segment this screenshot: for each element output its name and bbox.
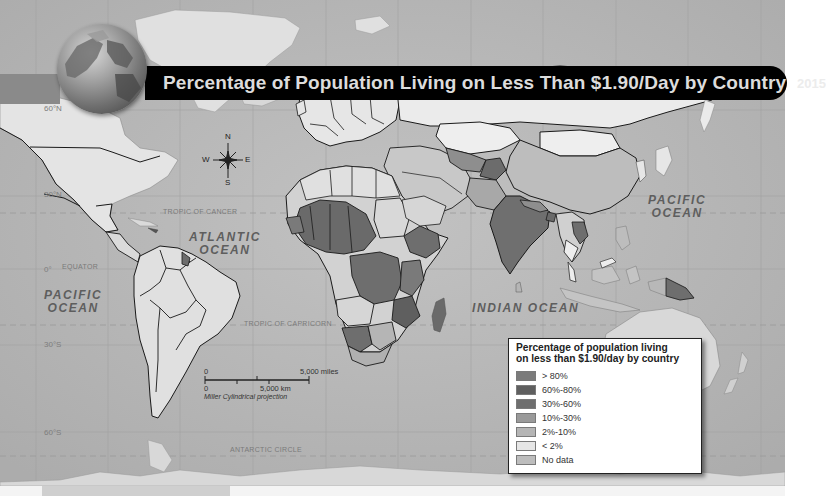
bottom-strip xyxy=(0,486,785,496)
legend-label: 30%-60% xyxy=(542,399,581,409)
equator-label: EQUATOR xyxy=(62,263,98,270)
compass-e: E xyxy=(245,155,250,164)
title-left-band xyxy=(0,74,60,104)
legend-swatch xyxy=(516,413,536,423)
legend-item: > 80% xyxy=(516,370,568,382)
tropic-of-cancer-label: TROPIC OF CANCER xyxy=(163,208,237,215)
pacific-ocean-west-label-line2: OCEAN xyxy=(44,302,102,315)
scale-km-zero: 0 xyxy=(204,384,208,393)
legend-item: < 2% xyxy=(516,440,563,452)
indian-ocean-label: INDIAN OCEAN xyxy=(472,302,579,315)
legend-item: 30%-60% xyxy=(516,398,581,410)
pacific-ocean-east-label-line2: OCEAN xyxy=(648,207,706,220)
antarctic-circle-label: ANTARCTIC CIRCLE xyxy=(230,446,302,453)
compass-n: N xyxy=(225,132,231,141)
lat-label-30n: 30°N xyxy=(44,190,62,199)
scale-bar-line xyxy=(204,375,314,385)
projection-label: Miller Cylindrical projection xyxy=(204,393,287,400)
bottom-strip-segment xyxy=(42,486,230,496)
legend-item: 10%-30% xyxy=(516,412,581,424)
atlantic-ocean-label: ATLANTIC OCEAN xyxy=(189,231,261,257)
legend-label: No data xyxy=(542,455,574,465)
lat-label-equator: 0° xyxy=(44,265,52,274)
legend: Percentage of population living on less … xyxy=(508,338,702,474)
legend-item: 60%-80% xyxy=(516,384,581,396)
legend-label: < 2% xyxy=(542,441,563,451)
scale-bar: 0 5,000 miles 0 5,000 km Miller Cylindri… xyxy=(204,367,344,407)
compass-rose: N S W E xyxy=(203,133,253,188)
legend-title: Percentage of population living on less … xyxy=(516,343,679,364)
scale-km-max: 5,000 km xyxy=(260,384,291,393)
pacific-ocean-east-label: PACIFIC OCEAN xyxy=(648,194,706,220)
lat-label-30s: 30°S xyxy=(44,340,61,349)
legend-swatch xyxy=(516,399,536,409)
legend-swatch xyxy=(516,455,536,465)
map-year: 2015 xyxy=(797,76,826,91)
legend-label: 10%-30% xyxy=(542,413,581,423)
globe-continents xyxy=(57,24,147,114)
tropic-of-capricorn-label: TROPIC OF CAPRICORN xyxy=(244,320,332,327)
legend-swatch xyxy=(516,385,536,395)
legend-title-line2: on less than $1.90/day by country xyxy=(516,354,679,365)
legend-label: > 80% xyxy=(542,371,568,381)
title-banner: Percentage of Population Living on Less … xyxy=(145,66,787,100)
legend-item: No data xyxy=(516,454,574,466)
legend-title-line1: Percentage of population living xyxy=(516,343,679,354)
legend-item: 2%-10% xyxy=(516,426,576,438)
legend-swatch xyxy=(516,441,536,451)
globe-icon xyxy=(57,24,147,114)
pacific-ocean-west-label: PACIFIC OCEAN xyxy=(44,289,102,315)
legend-swatch xyxy=(516,371,536,381)
compass-w: W xyxy=(202,155,210,164)
lat-label-60s: 60°S xyxy=(44,428,61,437)
atlantic-ocean-label-line2: OCEAN xyxy=(189,244,261,257)
compass-s: S xyxy=(225,178,230,187)
legend-swatch xyxy=(516,427,536,437)
map-title: Percentage of Population Living on Less … xyxy=(163,72,786,94)
legend-label: 2%-10% xyxy=(542,427,576,437)
legend-label: 60%-80% xyxy=(542,385,581,395)
